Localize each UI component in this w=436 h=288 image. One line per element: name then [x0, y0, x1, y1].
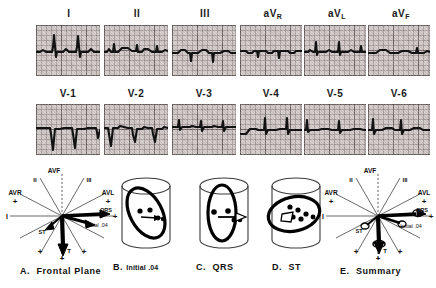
caption-panel-d: D. ST [272, 262, 301, 272]
lead-label-II: II [104, 8, 170, 19]
loop-dot [298, 216, 303, 221]
panel-b-initial-04 [112, 174, 180, 260]
label-st-a: ST [38, 229, 46, 235]
ecg-trace-aVR [240, 25, 302, 76]
ecg-strip-V1 [36, 104, 100, 155]
plus-iii: + [398, 247, 403, 256]
cylinder-top [272, 178, 320, 194]
plus-avr: + [13, 197, 18, 206]
ecg-strip-V2 [104, 104, 168, 155]
lead-label-III: III [172, 8, 238, 19]
loop-dot [303, 211, 308, 216]
label-avr-e: AVR [324, 189, 338, 196]
ecg-strip-V3 [172, 104, 236, 155]
caption-panel-e: E. Summary [340, 266, 401, 276]
loop-dot [225, 208, 231, 214]
label-initial04-a: Initial .04 [86, 222, 108, 228]
label-avr-a: AVR [8, 189, 22, 196]
label-i-a: I [6, 213, 8, 220]
ecg-trace-II [104, 25, 168, 76]
plus-avl: + [422, 197, 427, 206]
lead-label-V6: V-6 [368, 88, 430, 99]
ecg-strip-V5 [304, 104, 366, 155]
label-avl-e: AVL [418, 189, 431, 196]
ecg-trace-aVF [368, 25, 430, 76]
label-initial04-e: Initial .04 [400, 223, 422, 229]
lead-label-V2: V-2 [104, 88, 168, 99]
label-iii-a: III [86, 177, 91, 183]
caption-panel-a: A. Frontal Plane [20, 266, 101, 276]
plus-avl: + [106, 197, 111, 206]
ecg-strip-II [104, 25, 168, 76]
ecg-trace-V5 [304, 104, 366, 155]
loop-dot [211, 209, 217, 215]
ecg-trace-aVL [304, 25, 366, 76]
ecg-trace-III [172, 25, 236, 76]
ecg-trace-V4 [240, 104, 302, 155]
ecg-strip-aVR [240, 25, 302, 76]
ecg-strip-I [36, 25, 100, 76]
loop-dot [147, 207, 152, 212]
panel-a-frontal-plane: AVF II III AVR AVL I + + + + + + QRS Ini… [2, 164, 120, 262]
ecg-trace-V3 [172, 104, 236, 155]
lead-label-I: I [36, 8, 102, 19]
caption-panel-b: B. Initial .04 [113, 262, 158, 272]
lead-label-V5: V-5 [304, 88, 366, 99]
plus-i: + [429, 212, 434, 221]
vector-st [45, 216, 62, 230]
lead-label-aVF: aVF [368, 8, 434, 19]
cylinder-bottom [122, 240, 170, 248]
plus-avf: + [376, 254, 381, 262]
lead-label-V4: V-4 [240, 88, 302, 99]
lead-label-aVL: aVL [304, 8, 370, 19]
loop-flag-marker [281, 212, 293, 222]
caption-panel-c: C. QRS [196, 262, 234, 272]
ecg-trace-V1 [36, 104, 100, 155]
label-qrs-e: QRS [416, 207, 428, 213]
plus-avf: + [60, 254, 65, 262]
ecg-trace-V2 [104, 104, 168, 155]
panel-e-summary: AVF II III AVR AVL I + + + + + + QRS Ini… [318, 164, 436, 262]
plus-avr: + [329, 197, 334, 206]
label-avf-e: AVF [364, 167, 377, 174]
ecg-trace-V6 [368, 104, 430, 155]
label-t-a: T [67, 248, 71, 254]
ecg-strip-III [172, 25, 236, 76]
ecg-strip-V4 [240, 104, 302, 155]
ecg-strip-V6 [368, 104, 430, 155]
plus-ii: + [354, 247, 359, 256]
label-qrs-a: QRS [100, 207, 112, 213]
ecg-strip-aVL [304, 25, 366, 76]
label-iii-e: III [402, 177, 407, 183]
plus-ii: + [38, 247, 43, 256]
ecg-figure: I II III aVR aVL aVF [0, 0, 436, 288]
label-ii-a: II [33, 177, 37, 183]
lead-label-aVR: aVR [240, 8, 306, 19]
panel-c-qrs [190, 174, 258, 260]
vector-loop-d [265, 192, 323, 236]
vector-st [361, 216, 378, 229]
loop-dot [295, 207, 300, 212]
ecg-strip-aVF [368, 25, 430, 76]
cylinder-bottom [272, 240, 320, 248]
loop-dot [311, 215, 316, 220]
loop-dot [137, 208, 142, 213]
label-i-e: I [322, 213, 324, 220]
lead-label-V1: V-1 [36, 88, 100, 99]
lead-label-V3: V-3 [172, 88, 236, 99]
label-t-e: T [383, 248, 387, 254]
label-ii-e: II [349, 177, 353, 183]
label-avf-a: AVF [48, 167, 61, 174]
loop-dot [287, 204, 292, 209]
ecg-trace-I [36, 25, 100, 76]
plus-iii: + [82, 247, 87, 256]
label-st-e: ST [355, 228, 363, 234]
loop-dot [161, 217, 165, 221]
